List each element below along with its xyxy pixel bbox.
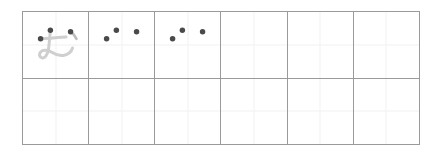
vertical-guide-line (254, 12, 255, 78)
vertical-guide-line (55, 79, 56, 145)
stroke-start-dot-2 (170, 36, 175, 42)
horizontal-guide-line (288, 111, 353, 112)
horizontal-guide-line (155, 111, 220, 112)
cell-r2c4[interactable] (221, 79, 287, 146)
cell-r1c6[interactable] (354, 12, 420, 79)
stroke-start-dot-3 (134, 29, 139, 35)
practice-grid (22, 11, 420, 145)
horizontal-guide-line (23, 111, 88, 112)
horizontal-guide-line (221, 44, 286, 45)
cell-r2c5[interactable] (288, 79, 354, 146)
stroke-start-dot-1 (114, 28, 119, 34)
trace-stroke-2-icon (39, 30, 72, 58)
trace-stroke-1-icon (41, 37, 66, 39)
vertical-guide-line (320, 12, 321, 78)
cell-r1c5[interactable] (288, 12, 354, 79)
horizontal-guide-line (354, 111, 419, 112)
horizontal-guide-line (221, 111, 286, 112)
cell-r2c6[interactable] (354, 79, 420, 146)
vertical-guide-line (187, 79, 188, 145)
horizontal-guide-line (354, 44, 419, 45)
stroke-start-dot-1 (48, 28, 53, 34)
cell-r2c2[interactable] (89, 79, 155, 146)
stroke-start-dot-2 (38, 36, 43, 42)
horizontal-guide-line (89, 111, 154, 112)
horizontal-guide-line (288, 44, 353, 45)
glyph-layer (23, 12, 88, 78)
vertical-guide-line (386, 79, 387, 145)
stroke-start-dot-3 (200, 29, 205, 35)
stroke-start-dot-1 (180, 28, 185, 34)
vertical-guide-line (320, 79, 321, 145)
cell-r1c4[interactable] (221, 12, 287, 79)
glyph-layer (155, 12, 220, 78)
stroke-start-dot-2 (104, 36, 109, 42)
cell-r2c1[interactable] (23, 79, 89, 146)
handwriting-practice-worksheet (22, 11, 420, 145)
vertical-guide-line (386, 12, 387, 78)
cell-r1c1[interactable] (23, 12, 89, 79)
cell-r1c2[interactable] (89, 12, 155, 79)
stroke-start-dot-3 (68, 29, 73, 35)
cell-r2c3[interactable] (155, 79, 221, 146)
cell-r1c3[interactable] (155, 12, 221, 79)
glyph-layer (89, 12, 154, 78)
vertical-guide-line (121, 79, 122, 145)
vertical-guide-line (254, 79, 255, 145)
